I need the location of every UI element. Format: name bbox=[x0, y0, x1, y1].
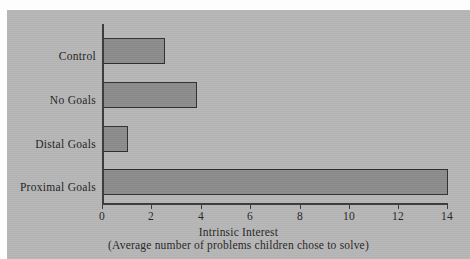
category-label-distal-goals: Distal Goals bbox=[35, 138, 96, 150]
x-tick-label-14: 14 bbox=[427, 210, 467, 222]
category-label-no-goals: No Goals bbox=[50, 94, 96, 106]
plot-area: Control No Goals Distal Goals Proximal G… bbox=[7, 10, 470, 259]
x-tick-label-12: 12 bbox=[378, 210, 418, 222]
bar-control[interactable] bbox=[103, 38, 165, 64]
x-tick-0 bbox=[102, 204, 103, 209]
x-tick-label-0: 0 bbox=[82, 210, 122, 222]
chart-panel: Control No Goals Distal Goals Proximal G… bbox=[7, 10, 470, 259]
x-tick-6 bbox=[250, 204, 251, 209]
bar-proximal-goals[interactable] bbox=[103, 169, 448, 195]
x-tick-label-4: 4 bbox=[181, 210, 221, 222]
x-tick-8 bbox=[300, 204, 301, 209]
x-tick-14 bbox=[447, 204, 448, 209]
x-tick-label-10: 10 bbox=[329, 210, 369, 222]
x-tick-label-8: 8 bbox=[280, 210, 320, 222]
x-tick-2 bbox=[151, 204, 152, 209]
x-axis-title: Intrinsic Interest bbox=[7, 226, 470, 238]
x-tick-label-2: 2 bbox=[131, 210, 171, 222]
bar-no-goals[interactable] bbox=[103, 82, 197, 108]
x-tick-4 bbox=[201, 204, 202, 209]
x-axis-line bbox=[102, 203, 448, 205]
x-axis-subtitle: (Average number of problems children cho… bbox=[7, 239, 470, 251]
category-label-control: Control bbox=[59, 50, 96, 62]
x-tick-label-6: 6 bbox=[230, 210, 270, 222]
chart-screenshot: Control No Goals Distal Goals Proximal G… bbox=[0, 0, 470, 259]
x-tick-10 bbox=[349, 204, 350, 209]
bar-distal-goals[interactable] bbox=[103, 126, 128, 152]
y-axis-line bbox=[102, 24, 104, 203]
category-label-proximal-goals: Proximal Goals bbox=[20, 181, 96, 193]
x-tick-12 bbox=[398, 204, 399, 209]
